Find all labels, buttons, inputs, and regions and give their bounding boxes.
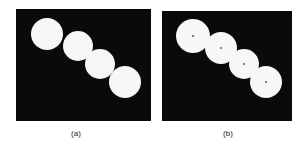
panel-a-caption: (a) (61, 129, 91, 138)
panel-b-caption: (b) (213, 129, 243, 138)
center-marker-1 (192, 35, 194, 37)
center-marker-3 (243, 63, 245, 65)
disk-1 (31, 18, 63, 50)
center-marker-2 (220, 47, 222, 49)
panel-b-image (162, 11, 292, 121)
center-marker-4 (265, 81, 267, 83)
panel-a-image (16, 9, 151, 121)
disk-4 (109, 66, 141, 98)
